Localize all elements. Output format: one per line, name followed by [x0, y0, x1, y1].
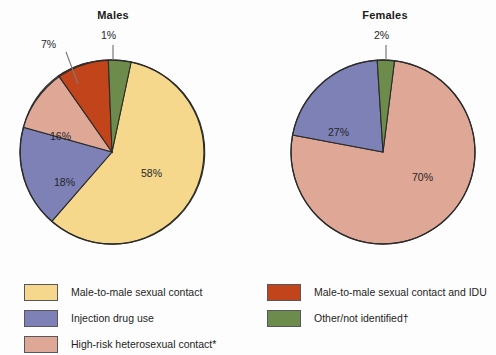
legend-label-male-to-male-sexual-contact: Male-to-male sexual contact — [71, 286, 202, 298]
legend-label-male-to-male-sexual-contact-and-idu: Male-to-male sexual contact and IDU — [314, 286, 487, 298]
value-label-males-16: 16% — [50, 130, 71, 142]
pie-males — [20, 60, 205, 244]
legend-swatch-other-not-identified — [267, 310, 301, 327]
pie-females — [291, 60, 475, 244]
legend-left-column: Male-to-male sexual contact Injection dr… — [24, 279, 216, 355]
chart-title-females: Females — [335, 9, 435, 21]
legend-label-other-not-identified: Other/not identified† — [314, 312, 409, 324]
legend-item-injection-drug-use[interactable]: Injection drug use — [24, 305, 216, 331]
legend-swatch-male-to-male-sexual-contact-and-idu — [267, 284, 301, 301]
value-label-females-27: 27% — [328, 126, 349, 138]
legend-label-high-risk-heterosexual-contact: High-risk heterosexual contact* — [71, 338, 216, 350]
legend-item-other-not-identified[interactable]: Other/not identified† — [267, 305, 487, 331]
legend-item-male-to-male-sexual-contact-and-idu[interactable]: Male-to-male sexual contact and IDU — [267, 279, 487, 305]
legend-label-injection-drug-use: Injection drug use — [71, 312, 154, 324]
value-label-males-58: 58% — [141, 167, 162, 179]
legend-swatch-male-to-male-sexual-contact — [24, 284, 58, 301]
legend-swatch-injection-drug-use — [24, 310, 58, 327]
value-label-females-2: 2% — [374, 29, 389, 41]
legend-swatch-high-risk-heterosexual-contact — [24, 336, 58, 353]
legend-item-male-to-male-sexual-contact[interactable]: Male-to-male sexual contact — [24, 279, 216, 305]
value-label-males-18: 18% — [54, 176, 75, 188]
value-label-males-1: 1% — [101, 29, 116, 41]
value-label-females-70: 70% — [412, 171, 433, 183]
value-label-males-7: 7% — [41, 38, 56, 50]
legend-right-column: Male-to-male sexual contact and IDU Othe… — [267, 279, 487, 331]
legend-item-high-risk-heterosexual-contact[interactable]: High-risk heterosexual contact* — [24, 331, 216, 355]
chart-title-males: Males — [63, 9, 163, 21]
